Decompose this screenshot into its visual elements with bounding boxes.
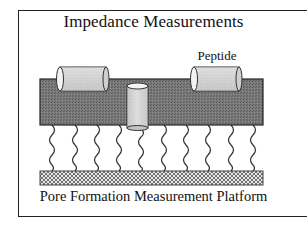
tether [184,125,189,171]
tether [206,125,211,171]
tether [73,125,78,171]
tether [139,129,144,171]
tether [95,125,100,171]
tether [162,125,167,171]
tether [251,125,256,171]
tether [117,125,122,171]
tethers [50,125,256,171]
diagram-caption: Pore Formation Measurement Platform [0,188,307,205]
peptide-surface-2 [191,67,243,91]
peptide-surface-1 [57,67,110,91]
peptide-pore [127,83,148,131]
tether [50,125,55,171]
tether [229,125,234,171]
support-substrate [40,171,263,185]
